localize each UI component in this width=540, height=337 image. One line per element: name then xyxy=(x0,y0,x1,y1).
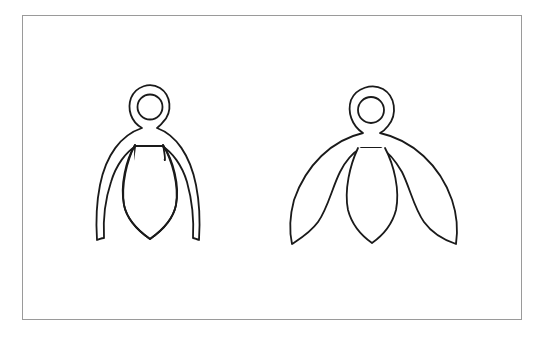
figure-canvas xyxy=(0,0,540,337)
left-figure-petal-mask xyxy=(134,147,164,161)
left-figure-ring-hole xyxy=(138,95,163,120)
right-figure xyxy=(290,86,457,244)
right-figure-petal-fill xyxy=(347,148,398,243)
left-figure xyxy=(96,85,199,240)
right-figure-ring-hole xyxy=(358,97,384,123)
